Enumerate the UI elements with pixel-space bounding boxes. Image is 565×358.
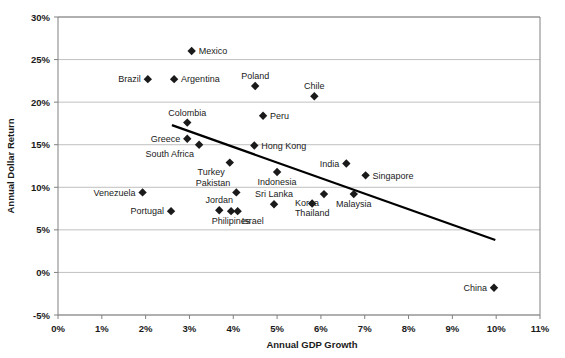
point-label-india: India <box>320 159 340 169</box>
point-label-israel: Israel <box>242 216 264 226</box>
point-label-portugal: Portugal <box>131 206 165 216</box>
x-tick-label: 8% <box>402 323 416 334</box>
point-label-argentina: Argentina <box>181 74 220 84</box>
data-point-indonesia <box>273 168 281 176</box>
data-point-greece <box>183 135 191 143</box>
data-point-china <box>490 284 498 292</box>
x-tick-label: 11% <box>531 323 550 334</box>
x-tick-label: 3% <box>183 323 197 334</box>
y-tick-label: -5% <box>33 310 50 321</box>
point-label-hong-kong: Hong Kong <box>261 141 306 151</box>
x-tick-label: 9% <box>445 323 459 334</box>
data-point-jordan <box>215 206 223 214</box>
y-axis-title: Annual Dollar Return <box>5 118 16 213</box>
point-label-korea: Korea <box>295 198 319 208</box>
data-point-india <box>342 159 350 167</box>
point-label-china: China <box>463 283 487 293</box>
point-label-pakistan: Pakistan <box>196 178 231 188</box>
point-label-colombia: Colombia <box>168 108 206 118</box>
data-point-chile <box>310 92 318 100</box>
x-tick-label: 1% <box>95 323 109 334</box>
axis-lines <box>58 17 540 315</box>
point-label-peru: Peru <box>270 111 289 121</box>
y-tick-label: 0% <box>36 267 50 278</box>
x-tick-label: 4% <box>226 323 240 334</box>
y-tick-label: 25% <box>31 54 51 65</box>
data-point-poland <box>251 82 259 90</box>
point-label-chile: Chile <box>304 81 325 91</box>
data-point-turkey <box>226 158 234 166</box>
point-label-poland: Poland <box>241 71 269 81</box>
point-label-greece: Greece <box>151 134 181 144</box>
gridlines <box>58 17 540 315</box>
y-tick-label: 30% <box>31 12 51 23</box>
x-tick-label: 6% <box>314 323 328 334</box>
point-label-south-africa: South Africa <box>146 149 195 159</box>
data-point-argentina <box>170 75 178 83</box>
data-point-pakistan <box>232 188 240 196</box>
data-point-brazil <box>144 75 152 83</box>
data-point-south-africa <box>195 141 203 149</box>
data-point-singapore <box>361 171 369 179</box>
data-point-venezuela <box>138 188 146 196</box>
point-label-sri-lanka: Sri Lanka <box>255 189 293 199</box>
y-tick-label: 15% <box>31 139 51 150</box>
point-label-mexico: Mexico <box>199 46 228 56</box>
point-label-jordan: Jordan <box>205 195 233 205</box>
point-label-brazil: Brazil <box>118 74 141 84</box>
y-tick-label: 5% <box>36 224 50 235</box>
data-point-israel <box>233 207 241 215</box>
x-tick-label: 2% <box>139 323 153 334</box>
data-point-hong-kong <box>250 141 258 149</box>
x-axis-ticks: 0%1%2%3%4%5%6%7%8%9%10%11% <box>51 315 550 334</box>
x-tick-label: 5% <box>270 323 284 334</box>
point-label-turkey: Turkey <box>198 167 226 177</box>
y-tick-label: 20% <box>31 97 51 108</box>
x-axis-title: Annual GDP Growth <box>266 339 357 350</box>
point-label-indonesia: Indonesia <box>258 177 297 187</box>
point-label-venezuela: Venezuela <box>94 188 136 198</box>
data-point-korea <box>320 190 328 198</box>
data-point-portugal <box>167 207 175 215</box>
data-point-peru <box>259 112 267 120</box>
x-tick-label: 0% <box>51 323 65 334</box>
y-tick-label: 10% <box>31 182 51 193</box>
point-labels: MexicoBrazilArgentinaPolandChilePeruColo… <box>94 46 487 293</box>
point-label-malaysia: Malaysia <box>336 199 372 209</box>
point-label-thailand: Thailand <box>295 208 330 218</box>
data-point-colombia <box>183 118 191 126</box>
data-point-mexico <box>187 47 195 55</box>
data-point-sri-lanka <box>270 200 278 208</box>
x-tick-label: 7% <box>358 323 372 334</box>
x-tick-label: 10% <box>487 323 507 334</box>
y-axis-ticks: -5%0%5%10%15%20%25%30% <box>31 12 58 321</box>
point-label-singapore: Singapore <box>373 171 414 181</box>
scatter-chart: 0%1%2%3%4%5%6%7%8%9%10%11% -5%0%5%10%15%… <box>0 0 565 358</box>
chart-canvas: 0%1%2%3%4%5%6%7%8%9%10%11% -5%0%5%10%15%… <box>0 0 565 358</box>
